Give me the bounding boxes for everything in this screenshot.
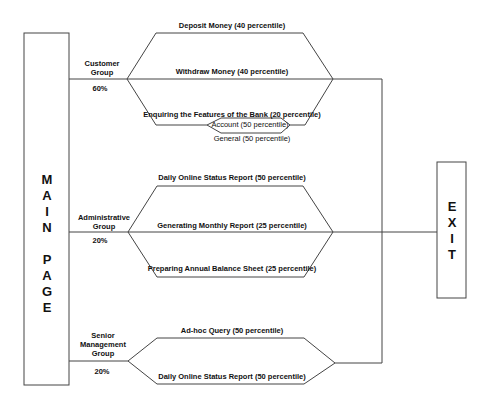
diagram-lines — [0, 0, 495, 420]
main-page-label: M A I N P A G E — [42, 172, 53, 316]
action-preparing-annual-balance: Preparing Annual Balance Sheet (25 perce… — [148, 264, 317, 273]
exit-label: E X I T — [448, 199, 457, 263]
customer-group-name-line2: Group — [91, 68, 114, 77]
senior-group-share: 20% — [94, 367, 109, 376]
action-daily-online-status-admin: Daily Online Status Report (50 percentil… — [158, 173, 306, 182]
letter: I — [450, 231, 454, 247]
senior-group-name-line1: Senior — [91, 331, 114, 340]
action-daily-online-status-senior: Daily Online Status Report (50 percentil… — [158, 372, 306, 381]
senior-top-branch — [128, 338, 335, 363]
action-adhoc-query: Ad-hoc Query (50 percentile) — [181, 326, 284, 335]
letter: G — [42, 284, 52, 300]
letter: A — [42, 188, 51, 204]
sub-action-general: General (50 percentile) — [214, 134, 291, 143]
letter: I — [45, 204, 49, 220]
senior-group-name-line2: Management — [80, 340, 126, 349]
action-deposit-money: Deposit Money (40 percentile) — [179, 21, 285, 30]
customer-group-share: 60% — [92, 84, 107, 93]
letter: N — [42, 220, 51, 236]
letter: P — [43, 252, 52, 268]
letter: X — [448, 215, 457, 231]
admin-group-name-line1: Administrative — [78, 213, 130, 222]
admin-group-name-line2: Group — [93, 222, 116, 231]
senior-group-name-line3: Group — [92, 349, 115, 358]
action-withdraw-money: Withdraw Money (40 percentile) — [176, 67, 288, 76]
action-enquiring-features: Enquiring the Features of the Bank (20 p… — [143, 110, 321, 119]
letter: E — [43, 300, 52, 316]
customer-exit-connector — [333, 79, 382, 363]
letter: E — [448, 199, 457, 215]
action-generating-monthly-report: Generating Monthly Report (25 percentile… — [157, 221, 307, 230]
letter: A — [42, 268, 51, 284]
admin-group-share: 20% — [92, 236, 107, 245]
sub-action-account: Account (50 percentile) — [211, 120, 288, 129]
letter: M — [42, 172, 53, 188]
customer-group-name-line1: Customer — [84, 59, 119, 68]
letter: T — [448, 247, 456, 263]
